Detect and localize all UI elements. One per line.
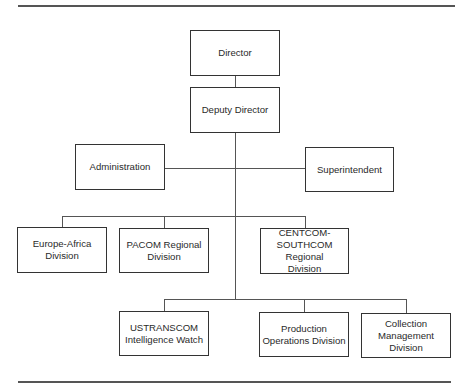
production-operations-division-label: Production Operations Division	[261, 323, 347, 347]
administration-label: Administration	[90, 161, 151, 173]
pacom-regional-division-label: PACOM Regional Division	[123, 239, 205, 263]
connector-staff	[165, 168, 305, 169]
connector-row2-drop-3	[406, 299, 407, 313]
connector-director-deputy	[235, 76, 236, 87]
europe-africa-division-box: Europe-Africa Division	[17, 227, 107, 273]
connector-row2-drop-2	[304, 299, 305, 312]
bottom-rule	[18, 381, 451, 383]
director-label: Director	[218, 47, 252, 59]
connector-row1-drop-2	[164, 216, 165, 228]
superintendent-label: Superintendent	[317, 164, 382, 176]
director-box: Director	[190, 30, 280, 76]
pacom-regional-division-box: PACOM Regional Division	[119, 228, 209, 273]
connector-row2-drop-1	[164, 299, 165, 311]
top-rule	[18, 5, 455, 7]
production-operations-division-box: Production Operations Division	[259, 312, 349, 357]
ustranscom-watch-label: USTRANSCOM Intelligence Watch	[123, 322, 205, 346]
europe-africa-division-label: Europe-Africa Division	[21, 238, 103, 262]
connector-row2-bar	[164, 299, 406, 300]
centcom-southcom-division-box: CENTCOM-SOUTHCOM Regional Division	[260, 228, 349, 274]
collection-management-division-box: Collection Management Division	[361, 313, 451, 358]
deputy-director-box: Deputy Director	[190, 87, 280, 133]
ustranscom-watch-box: USTRANSCOM Intelligence Watch	[119, 311, 209, 356]
connector-row1-bar	[62, 216, 305, 217]
superintendent-box: Superintendent	[305, 147, 394, 192]
administration-box: Administration	[75, 144, 165, 190]
deputy-director-label: Deputy Director	[202, 104, 269, 116]
collection-management-division-label: Collection Management Division	[374, 318, 438, 354]
connector-row1-drop-1	[62, 216, 63, 227]
centcom-southcom-division-label: CENTCOM-SOUTHCOM Regional Division	[273, 227, 336, 275]
